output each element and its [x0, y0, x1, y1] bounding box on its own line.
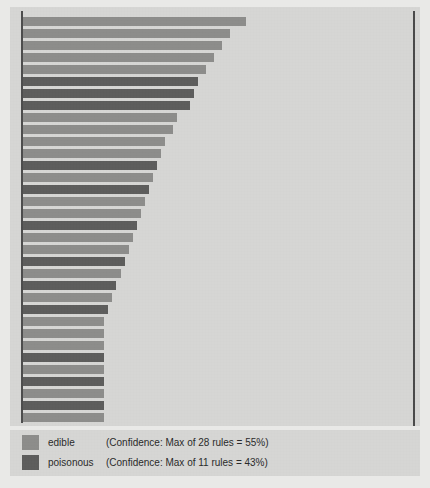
- bar-row: [23, 89, 194, 98]
- bar-edible: [23, 365, 104, 374]
- bar-edible: [23, 113, 177, 122]
- bar-poisonous: [23, 401, 104, 410]
- bar-edible: [23, 245, 129, 254]
- bar-edible: [23, 329, 104, 338]
- bar-edible: [23, 413, 104, 422]
- bar-row: [23, 53, 214, 62]
- bar-row: [23, 233, 133, 242]
- bar-row: [23, 221, 137, 230]
- bar-edible: [23, 341, 104, 350]
- bar-row: [23, 341, 104, 350]
- bar-row: [23, 101, 190, 110]
- bar-series-container: [23, 17, 413, 425]
- bar-row: [23, 113, 177, 122]
- poisonous-swatch-icon: [22, 455, 39, 470]
- legend-label-edible: edible: [48, 437, 106, 448]
- bar-row: [23, 137, 165, 146]
- legend-note-poisonous: (Confidence: Max of 11 rules = 43%): [106, 457, 268, 468]
- bar-row: [23, 209, 141, 218]
- right-reference-line: [413, 11, 415, 426]
- legend-note-edible: (Confidence: Max of 28 rules = 55%): [106, 437, 269, 448]
- legend-entry-poisonous: poisonous (Confidence: Max of 11 rules =…: [22, 454, 268, 470]
- bar-row: [23, 41, 222, 50]
- bar-row: [23, 173, 153, 182]
- bar-row: [23, 353, 104, 362]
- bar-row: [23, 29, 230, 38]
- bar-edible: [23, 17, 246, 26]
- bar-chart-panel: [10, 7, 420, 426]
- bar-edible: [23, 65, 206, 74]
- bar-edible: [23, 149, 161, 158]
- chart-legend: edible (Confidence: Max of 28 rules = 55…: [10, 430, 420, 476]
- bar-row: [23, 185, 149, 194]
- bar-row: [23, 17, 246, 26]
- bar-row: [23, 125, 173, 134]
- edible-swatch-icon: [22, 435, 39, 450]
- bar-row: [23, 281, 116, 290]
- bar-edible: [23, 41, 222, 50]
- bar-edible: [23, 53, 214, 62]
- bar-row: [23, 401, 104, 410]
- bar-poisonous: [23, 353, 104, 362]
- bar-poisonous: [23, 281, 116, 290]
- bar-poisonous: [23, 305, 108, 314]
- bar-row: [23, 77, 198, 86]
- bar-row: [23, 269, 121, 278]
- legend-label-poisonous: poisonous: [48, 457, 106, 468]
- bar-row: [23, 245, 129, 254]
- bar-row: [23, 149, 161, 158]
- bar-edible: [23, 209, 141, 218]
- bar-row: [23, 197, 145, 206]
- bar-edible: [23, 233, 133, 242]
- bar-row: [23, 305, 108, 314]
- bar-edible: [23, 137, 165, 146]
- bar-row: [23, 257, 125, 266]
- bar-row: [23, 65, 206, 74]
- bar-edible: [23, 293, 112, 302]
- bar-poisonous: [23, 89, 194, 98]
- bar-poisonous: [23, 221, 137, 230]
- bar-edible: [23, 173, 153, 182]
- bar-poisonous: [23, 101, 190, 110]
- legend-entry-edible: edible (Confidence: Max of 28 rules = 55…: [22, 434, 269, 450]
- bar-row: [23, 377, 104, 386]
- bar-edible: [23, 29, 230, 38]
- bar-row: [23, 293, 112, 302]
- bar-edible: [23, 269, 121, 278]
- bar-row: [23, 389, 104, 398]
- bar-edible: [23, 317, 104, 326]
- bar-row: [23, 161, 157, 170]
- bar-poisonous: [23, 77, 198, 86]
- chart-screenshot: edible (Confidence: Max of 28 rules = 55…: [0, 0, 430, 488]
- bar-poisonous: [23, 257, 125, 266]
- bar-edible: [23, 389, 104, 398]
- bar-poisonous: [23, 161, 157, 170]
- bar-row: [23, 365, 104, 374]
- bar-row: [23, 413, 104, 422]
- bar-row: [23, 329, 104, 338]
- bar-edible: [23, 197, 145, 206]
- bar-row: [23, 317, 104, 326]
- bar-poisonous: [23, 377, 104, 386]
- bar-poisonous: [23, 185, 149, 194]
- bar-edible: [23, 125, 173, 134]
